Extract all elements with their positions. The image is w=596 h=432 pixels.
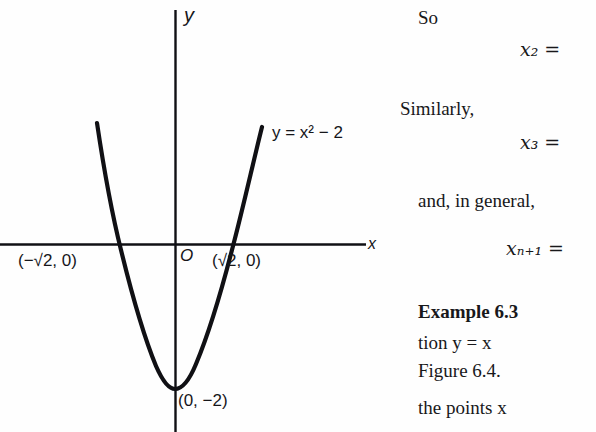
text-line-so: So: [418, 8, 438, 27]
equation-x3: x₃ =: [520, 133, 560, 152]
equation-x2: x₂ =: [520, 40, 560, 59]
equation-xn-plus-1: xₙ₊₁ =: [506, 239, 564, 258]
point-label-vertex: (0, −2): [178, 392, 228, 409]
example-heading: Example 6.3: [418, 302, 518, 321]
point-label-negative-root: (−√2, 0): [18, 252, 77, 269]
y-axis-label: y: [184, 5, 194, 25]
text-line-and-in-general: and, in general,: [418, 191, 535, 210]
x-axis-label: x: [368, 236, 376, 252]
graph-figure: y x O y = x² − 2 (−√2, 0) (√2, 0) (0, −2…: [0, 0, 392, 432]
textbook-page: y x O y = x² − 2 (−√2, 0) (√2, 0) (0, −2…: [0, 0, 596, 432]
point-label-positive-root: (√2, 0): [212, 252, 261, 269]
text-line-similarly: Similarly,: [400, 99, 474, 118]
curve-equation-label: y = x² − 2: [272, 124, 343, 141]
text-line-tion: tion y = x: [418, 333, 492, 352]
body-text-column: So x₂ = Similarly, x₃ = and, in general,…: [398, 0, 596, 432]
text-line-the-points: the points x: [418, 398, 507, 417]
origin-label: O: [180, 247, 193, 264]
parabola-plot: [0, 0, 392, 432]
text-line-figure-reference: Figure 6.4.: [418, 361, 501, 380]
